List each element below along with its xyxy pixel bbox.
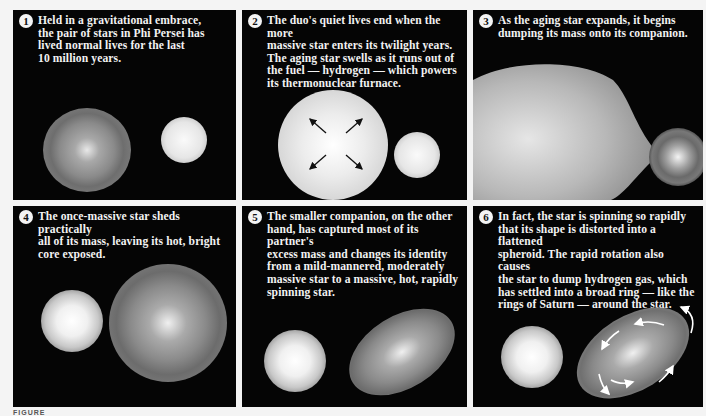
- exposed-core: [264, 330, 326, 392]
- step-number-badge: 5: [248, 210, 262, 224]
- panel-2: 2 The duo's quiet lives end when the mor…: [242, 10, 467, 200]
- caption-text: The smaller companion, on the other hand…: [267, 211, 461, 299]
- panel-1-caption: 1 Held in a gravitational embrace, the p…: [19, 15, 230, 65]
- caption-text: The once-massive star sheds practically …: [38, 211, 230, 261]
- figure-caption: FIGURE: [13, 409, 45, 416]
- companion-star: [649, 128, 703, 186]
- rotation-arrows-icon: [473, 206, 703, 407]
- companion-star: [109, 264, 227, 382]
- mass-transfer-illustration: [473, 10, 703, 200]
- panel-4-caption: 4 The once-massive star sheds practicall…: [19, 211, 230, 261]
- companion-star: [394, 132, 440, 178]
- panel-3: 3 As the aging star expands, it begins d…: [473, 10, 703, 200]
- panel-5: 5 The smaller companion, on the other ha…: [242, 206, 467, 407]
- expansion-arrows-icon: [242, 10, 467, 200]
- panel-1: 1 Held in a gravitational embrace, the p…: [13, 10, 236, 200]
- panel-5-caption: 5 The smaller companion, on the other ha…: [248, 211, 461, 299]
- exposed-core: [41, 290, 103, 352]
- step-number-badge: 4: [19, 210, 33, 224]
- panel-6: 6 In fact, the star is spinning so rapid…: [473, 206, 703, 407]
- companion-star: [161, 117, 207, 163]
- donor-star-lobe: [473, 64, 657, 200]
- spinning-star: [334, 291, 467, 407]
- step-number-badge: 1: [19, 14, 33, 28]
- panel-4: 4 The once-massive star sheds practicall…: [13, 206, 236, 407]
- caption-text: Held in a gravitational embrace, the pai…: [38, 15, 205, 65]
- aging-star: [43, 108, 131, 192]
